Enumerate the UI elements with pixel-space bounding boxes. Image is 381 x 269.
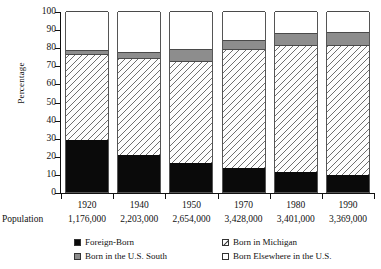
y-axis-tick-mark [55, 66, 60, 67]
y-axis-tick-mark [55, 30, 60, 31]
bar-segment-1940-born-in-michigan [118, 58, 160, 155]
bar-segment-1950-born-elsewhere-in-the-u-s [170, 11, 212, 49]
y-axis-tick-80: 80 [30, 43, 56, 53]
x-axis-tick-label-1970: 1970 [217, 200, 271, 210]
population-value-1970: 3,428,000 [217, 214, 271, 224]
y-axis-tick-mark [55, 193, 60, 194]
bar-segment-1980-born-in-michigan [275, 45, 317, 172]
y-axis-tick-60: 60 [30, 79, 56, 89]
legend-item-foreign-born: Foreign-Born [74, 237, 134, 247]
bar-1950 [169, 12, 213, 193]
bar-segment-1940-foreign-born [118, 155, 160, 192]
y-axis-tick-mark [55, 12, 60, 13]
plot-area [61, 12, 374, 193]
stacked-bar-chart: Percentage 0102030405060708090100 19201,… [0, 0, 381, 269]
bar-segment-1950-born-in-the-u-s-south [170, 49, 212, 61]
bar-1980 [274, 12, 318, 193]
population-value-1980: 3,401,000 [269, 214, 323, 224]
legend-item-born-in-michigan: Born in Michigan [222, 237, 297, 247]
bar-segment-1990-born-in-michigan [327, 45, 369, 175]
bar-1920 [65, 12, 109, 193]
bar-segment-1970-born-in-michigan [223, 49, 265, 168]
x-axis-tick-label-1940: 1940 [112, 200, 166, 210]
y-axis-tick-mark [55, 121, 60, 122]
bar-segment-1940-born-in-the-u-s-south [118, 52, 160, 58]
bar-segment-1980-born-elsewhere-in-the-u-s [275, 11, 317, 33]
bar-segment-1920-foreign-born [66, 140, 108, 192]
legend-item-born-in-the-u-s-south: Born in the U.S. South [74, 251, 167, 261]
bar-segment-1990-born-elsewhere-in-the-u-s [327, 11, 369, 32]
x-axis-tick-label-1980: 1980 [269, 200, 323, 210]
bar-segment-1920-born-in-michigan [66, 54, 108, 139]
x-axis-tick-mark [270, 194, 271, 199]
bar-segment-1920-born-elsewhere-in-the-u-s [66, 11, 108, 50]
y-axis-tick-50: 50 [30, 98, 56, 108]
bar-1940 [117, 12, 161, 193]
legend-label: Born in the U.S. South [85, 251, 167, 261]
x-axis-tick-mark [113, 194, 114, 199]
legend-swatch-solid-gray-icon [74, 253, 81, 260]
bar-segment-1970-born-in-the-u-s-south [223, 40, 265, 49]
x-axis-tick-mark [218, 194, 219, 199]
population-value-1940: 2,203,000 [112, 214, 166, 224]
x-axis-tick-label-1990: 1990 [321, 200, 375, 210]
x-axis-tick-mark [165, 194, 166, 199]
y-axis-tick-100: 100 [30, 7, 56, 17]
y-axis-tick-mark [55, 139, 60, 140]
x-axis-tick-mark [374, 194, 375, 199]
bar-1970 [222, 12, 266, 193]
legend-swatch-white-icon [222, 253, 229, 260]
legend-item-born-elsewhere-in-the-u-s: Born Elsewhere in the U.S. [222, 251, 331, 261]
y-axis-tick-mark [55, 157, 60, 158]
legend-label: Foreign-Born [85, 237, 134, 247]
bar-segment-1950-foreign-born [170, 163, 212, 192]
population-row-label: Population [2, 214, 43, 224]
y-axis-tick-70: 70 [30, 61, 56, 71]
bar-segment-1990-born-in-the-u-s-south [327, 32, 369, 45]
bar-segment-1940-born-elsewhere-in-the-u-s [118, 11, 160, 52]
population-value-1920: 1,176,000 [60, 214, 114, 224]
legend-label: Born Elsewhere in the U.S. [233, 251, 331, 261]
y-axis-tick-40: 40 [30, 116, 56, 126]
y-axis-tick-mark [55, 103, 60, 104]
y-axis-tick-mark [55, 175, 60, 176]
y-axis-tick-10: 10 [30, 170, 56, 180]
legend-label: Born in Michigan [233, 237, 297, 247]
x-axis-tick-mark [61, 194, 62, 199]
bar-segment-1970-foreign-born [223, 168, 265, 192]
bar-segment-1950-born-in-michigan [170, 61, 212, 163]
chart-legend: Foreign-BornBorn in MichiganBorn in the … [74, 237, 374, 265]
y-axis-tick-0: 0 [30, 188, 56, 198]
legend-swatch-solid-black-icon [74, 239, 81, 246]
bar-segment-1920-born-in-the-u-s-south [66, 50, 108, 55]
bar-segment-1980-born-in-the-u-s-south [275, 33, 317, 46]
y-axis-tick-labels: 0102030405060708090100 [22, 0, 56, 200]
y-axis-tick-mark [55, 84, 60, 85]
y-axis-tick-90: 90 [30, 25, 56, 35]
x-axis-tick-mark [322, 194, 323, 199]
population-value-1950: 2,654,000 [164, 214, 218, 224]
y-axis-tick-20: 20 [30, 152, 56, 162]
y-axis-tick-mark [55, 48, 60, 49]
y-axis-tick-30: 30 [30, 134, 56, 144]
bar-segment-1970-born-elsewhere-in-the-u-s [223, 11, 265, 40]
x-axis-tick-label-1950: 1950 [164, 200, 218, 210]
legend-swatch-diagonal-hatch-icon [222, 239, 229, 246]
bar-segment-1990-foreign-born [327, 175, 369, 192]
x-axis-tick-label-1920: 1920 [60, 200, 114, 210]
population-value-1990: 3,369,000 [321, 214, 375, 224]
bar-1990 [326, 12, 370, 193]
bar-segment-1980-foreign-born [275, 172, 317, 192]
